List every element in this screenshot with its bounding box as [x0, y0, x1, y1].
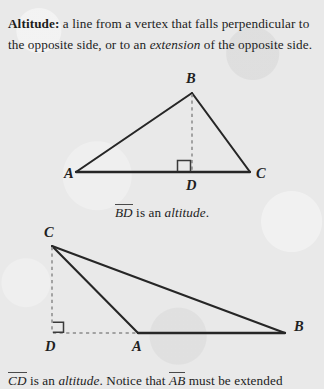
vertex-label-A: A	[63, 165, 74, 181]
caption-obtuse-text-1: is an	[27, 373, 59, 388]
caption-obtuse-triangle: CD is an altitude. Notice that AB must b…	[8, 371, 320, 389]
caption-segment-BD: BD	[115, 204, 133, 220]
altitude-definition-paragraph: Altitude: a line from a vertex that fall…	[8, 14, 320, 55]
caption-acute-triangle: BD is an altitude.	[0, 203, 324, 222]
caption-acute-text-middle: is an	[133, 205, 165, 220]
vertex-label-C: C	[256, 165, 266, 181]
obtuse-triangle-drawing: C D A B	[0, 222, 324, 342]
vertex-label-B: B	[293, 318, 304, 334]
caption-segment-AB: AB	[169, 372, 185, 388]
caption-obtuse-text-2: . Notice that	[99, 373, 169, 388]
figure-acute-triangle: A B C D	[0, 68, 324, 188]
side-C-B	[52, 246, 285, 333]
side-C-A	[52, 246, 138, 333]
right-angle-mark-D	[178, 161, 191, 172]
vertex-label-A: A	[131, 338, 142, 354]
vertex-label-C: C	[44, 224, 54, 240]
definition-text-part-2: of the opposite side.	[200, 37, 312, 52]
caption-obtuse-emphasis-altitude: altitude	[58, 373, 99, 388]
caption-acute-emphasis-altitude: altitude	[165, 205, 206, 220]
acute-triangle-drawing: A B C D	[0, 68, 324, 188]
side-B-C	[192, 93, 250, 172]
definition-term: Altitude:	[8, 16, 59, 31]
side-A-B	[76, 93, 192, 172]
vertex-label-B: B	[185, 70, 196, 86]
caption-acute-text-end: .	[206, 205, 209, 220]
right-angle-mark-D	[53, 322, 64, 332]
caption-segment-CD: CD	[8, 372, 27, 388]
caption-obtuse-text-3: must be extended	[185, 373, 282, 388]
vertex-label-D: D	[44, 338, 56, 354]
figure-obtuse-triangle: C D A B	[0, 222, 324, 342]
definition-emphasis-extension: extension	[150, 37, 201, 52]
vertex-label-D: D	[185, 177, 197, 193]
